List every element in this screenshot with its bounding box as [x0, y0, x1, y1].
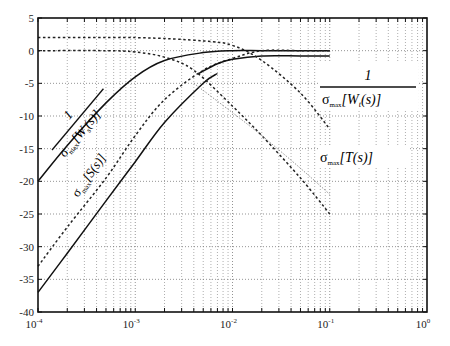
wt-numerator: 1 [365, 68, 372, 83]
y-tick-label: -30 [19, 241, 34, 253]
x-tick-label: 100 [416, 317, 431, 330]
series-curve [199, 56, 330, 74]
chart: 50-5-10-15-20-25-30-35-40 10-410-310-210… [0, 0, 450, 346]
y-tick-label: -15 [19, 143, 34, 155]
y-tick-label: -5 [25, 77, 35, 89]
x-tick-label: 10-3 [123, 317, 140, 330]
y-axis-labels: 50-5-10-15-20-25-30-35-40 [19, 12, 34, 318]
ws-numerator: 1 [60, 107, 76, 122]
series-curve [38, 51, 330, 182]
annotation-t: σmax[T(s)] [318, 145, 408, 167]
annotation-inv-wt: 1 σmax[Wt(s)] [318, 63, 418, 111]
x-axis-labels: 10-410-310-210-1100 [26, 317, 431, 330]
data-curves [38, 37, 330, 292]
y-tick-label: -25 [19, 208, 34, 220]
x-tick-label: 10-2 [220, 317, 237, 330]
x-tick-label: 10-4 [26, 317, 43, 330]
x-tick-label: 10-1 [317, 317, 334, 330]
y-tick-label: -40 [19, 306, 34, 318]
s-label: σmax[S(s)] [68, 151, 110, 201]
y-tick-label: -10 [19, 110, 34, 122]
series-curve [38, 74, 217, 293]
annotation-s: σmax[S(s)] [68, 151, 110, 201]
y-tick-label: -20 [19, 175, 34, 187]
y-tick-label: -35 [19, 273, 34, 285]
annotation-inv-ws: 1 σmax[Ws(s)] [38, 77, 119, 163]
y-tick-label: 5 [29, 12, 35, 24]
y-tick-label: 0 [29, 45, 35, 57]
